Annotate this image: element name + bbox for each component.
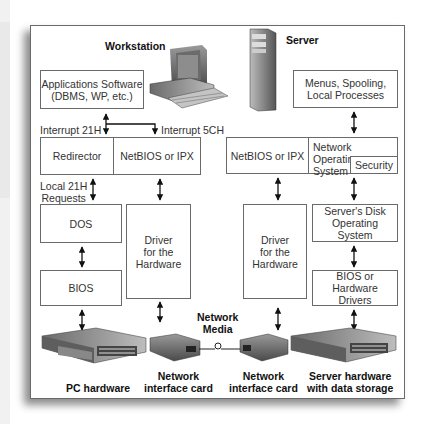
server-hardware-icon bbox=[291, 328, 396, 362]
diagram-graphics bbox=[0, 0, 424, 424]
workstation-computer-icon bbox=[150, 45, 228, 108]
workstation-nic-icon bbox=[150, 334, 200, 361]
server-tower-icon bbox=[250, 29, 276, 111]
network-cable bbox=[199, 343, 244, 349]
arrow-apps-netbios bbox=[106, 124, 155, 134]
pc-hardware-icon bbox=[42, 328, 146, 363]
server-nic-icon bbox=[240, 334, 288, 361]
